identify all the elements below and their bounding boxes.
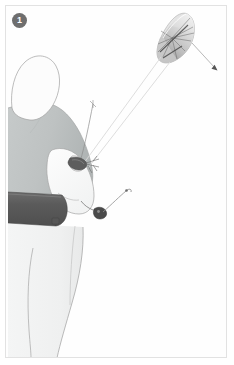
harness-belt [8, 192, 67, 226]
kite-wingtip-arrow [192, 43, 218, 71]
illustration-panel: 1 [0, 0, 234, 365]
kite-canopy [157, 13, 195, 63]
kite-power-lines [84, 57, 170, 168]
safety-leash [103, 189, 131, 212]
rider-legs [8, 223, 83, 358]
kitesurfing-step-illustration [0, 0, 234, 365]
step-number-badge: 1 [12, 13, 27, 28]
